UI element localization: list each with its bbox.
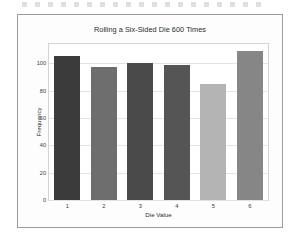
bar xyxy=(127,63,153,200)
bar xyxy=(237,51,263,200)
y-tick-label: 20 xyxy=(40,170,46,176)
scan-artifact xyxy=(22,2,262,7)
x-tick-label: 3 xyxy=(139,203,142,209)
y-axis-label: Frequency xyxy=(35,107,42,136)
x-tick-label: 5 xyxy=(212,203,215,209)
bar xyxy=(54,56,80,200)
x-axis-label: Die Value xyxy=(49,211,268,218)
chart-title: Rolling a Six-Sided Die 600 Times xyxy=(18,25,282,34)
bar xyxy=(164,65,190,200)
y-tick-label: 0 xyxy=(43,197,46,203)
bar xyxy=(200,84,226,200)
chart-figure-frame: Rolling a Six-Sided Die 600 Times 020406… xyxy=(17,14,283,228)
y-tick-label: 40 xyxy=(40,142,46,148)
x-tick-label: 6 xyxy=(248,203,251,209)
bar xyxy=(91,67,117,200)
bar-series xyxy=(49,44,268,200)
x-tick-label: 2 xyxy=(102,203,105,209)
x-tick-label: 1 xyxy=(66,203,69,209)
gridline xyxy=(49,200,268,201)
x-tick-label: 4 xyxy=(175,203,178,209)
y-tick-label: 100 xyxy=(37,60,46,66)
plot-area: 020406080100 123456 Die Value Frequency xyxy=(48,43,269,201)
y-tick-label: 80 xyxy=(40,88,46,94)
